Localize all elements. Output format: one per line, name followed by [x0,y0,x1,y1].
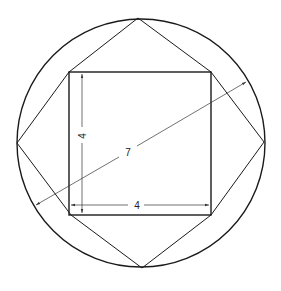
height-label: 4 [77,133,88,139]
width-label: 4 [134,200,140,211]
outer-circle [17,19,265,267]
geometry-diagram: 4 4 7 [0,0,281,291]
diagonal-label: 7 [125,147,131,158]
diagonal-dimension-line-upper [137,82,246,146]
inner-square [69,72,211,215]
diagonal-dimension-line [36,157,119,205]
